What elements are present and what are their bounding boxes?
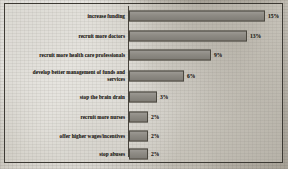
bar-category-label: stop abuses — [0, 151, 125, 157]
bar-category-label: stop the brain drain — [0, 94, 125, 100]
bar — [129, 50, 211, 61]
bar-category-label: offer higher wages/incentives — [0, 133, 125, 139]
bar-value-label: 15% — [268, 13, 279, 19]
bar-value-label: 2% — [151, 114, 159, 120]
bar-value-label: 9% — [214, 52, 222, 58]
bar-value-label: 2% — [151, 151, 159, 157]
bar — [129, 31, 247, 42]
bar — [129, 149, 148, 160]
bar — [129, 131, 148, 142]
bar-category-label: develop better management of funds and s… — [0, 69, 125, 82]
bar — [129, 112, 148, 123]
bar-value-label: 2% — [151, 133, 159, 139]
plot-area: increase funding 15% recruit more doctor… — [0, 0, 288, 169]
bar-value-label: 13% — [250, 33, 261, 39]
bar-category-label: recruit more nurses — [0, 114, 125, 120]
bar — [129, 71, 184, 82]
bar-category-label: recruit more health care professionals — [0, 52, 125, 58]
bar-category-label: recruit more doctors — [0, 33, 125, 39]
bar-chart: increase funding 15% recruit more doctor… — [0, 0, 288, 169]
bar-value-label: 3% — [160, 94, 168, 100]
bar-category-label: increase funding — [0, 13, 125, 19]
bar-value-label: 6% — [187, 73, 195, 79]
bar — [129, 11, 265, 22]
bar — [129, 92, 157, 103]
